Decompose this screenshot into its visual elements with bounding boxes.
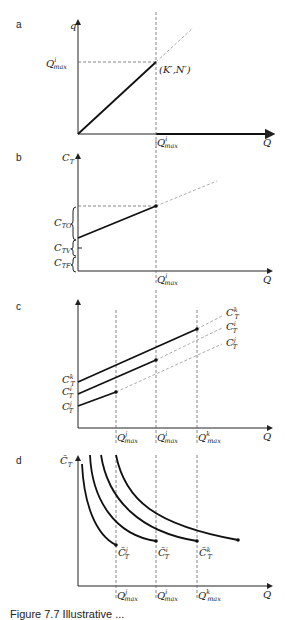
panel-d: d C̄T Q C̄jT C̄iT C̄kT Qjmax Qimax Qkmax <box>16 455 271 603</box>
panel-d-point-extra <box>236 538 240 542</box>
panel-d-curve-j <box>82 464 116 545</box>
panel-b-brace-tv <box>71 240 76 256</box>
panel-c-curve-k <box>78 329 197 382</box>
panel-c-point-i <box>154 358 158 362</box>
panel-c-x-axis-label: Q <box>263 431 271 442</box>
panel-b-x-axis-label: Q <box>263 274 271 285</box>
panel-c: c Q CkT CiT CjT CkT CiT CjT Qjmax Qimax … <box>16 290 271 445</box>
panel-b-brace-tf <box>71 257 76 272</box>
panel-a-extension <box>156 28 193 62</box>
panel-c-right-label-k: CkT <box>226 306 240 321</box>
panel-a-y-mark: Qimax <box>46 56 67 71</box>
panel-c-x-mark-j: Qjmax <box>117 430 138 445</box>
panel-a-point-label: (K′,N′) <box>159 64 191 75</box>
panel-b-x-mark: Qimax <box>157 272 178 287</box>
panel-a-x-axis-label: Q <box>263 137 271 148</box>
panel-d-label: d <box>16 455 22 466</box>
panel-d-x-mark-j: Qjmax <box>117 588 138 603</box>
panel-c-point-k <box>195 327 199 331</box>
panel-a-label: a <box>16 19 22 30</box>
panel-d-point-i <box>154 539 158 543</box>
panel-b-y-axis-label: CT <box>62 152 75 166</box>
panel-d-y-axis-label: C̄T <box>60 455 73 469</box>
panel-c-x-mark-i: Qimax <box>157 430 178 445</box>
panel-c-point-j <box>114 390 118 394</box>
panel-b-brace-to <box>71 207 76 240</box>
panel-b-label: b <box>16 152 22 163</box>
panel-c-extension-k <box>197 316 222 329</box>
panel-c-right-label-i: CiT <box>226 320 238 335</box>
panel-c-extension-j <box>116 344 222 392</box>
panel-b-extension <box>156 181 217 206</box>
panel-a-x-mark: Qimax <box>157 135 178 150</box>
panel-c-x-mark-k: Qkmax <box>198 430 221 445</box>
panel-d-point-label-j: C̄jT <box>118 546 130 561</box>
panel-b: b CT Q CTO CTV CTF Qimax <box>16 140 271 287</box>
panel-d-point-label-i: C̄iT <box>158 546 170 561</box>
panel-d-curve-k <box>101 455 197 541</box>
panel-b-point <box>154 204 158 208</box>
panel-d-point-label-k: C̄kT <box>199 546 213 561</box>
panel-b-label-cto: CTO <box>54 217 72 230</box>
panel-d-x-mark-i: Qimax <box>157 588 178 603</box>
panel-b-curve <box>78 206 156 238</box>
panel-c-curve-j <box>78 392 116 406</box>
panel-c-left-label-j: CjT <box>62 400 74 415</box>
figure-caption: Figure 7.7 Illustrative ... <box>10 608 124 620</box>
panel-d-x-axis-label: Q <box>263 589 271 600</box>
panel-a: a q Q Qimax (K′,N′) Qimax <box>16 12 271 150</box>
panel-d-point-k <box>195 539 199 543</box>
panel-d-x-mark-k: Qkmax <box>198 588 221 603</box>
panel-a-curve <box>78 62 156 134</box>
panel-c-right-label-j: CjT <box>226 336 238 351</box>
panel-d-curve-extra <box>116 455 238 540</box>
panel-c-label: c <box>16 301 21 312</box>
panel-b-label-ctf: CTF <box>54 257 71 270</box>
panel-b-label-ctv: CTV <box>54 242 72 255</box>
panel-d-curve-i <box>90 455 156 541</box>
panel-a-y-axis-label: q <box>70 20 76 31</box>
